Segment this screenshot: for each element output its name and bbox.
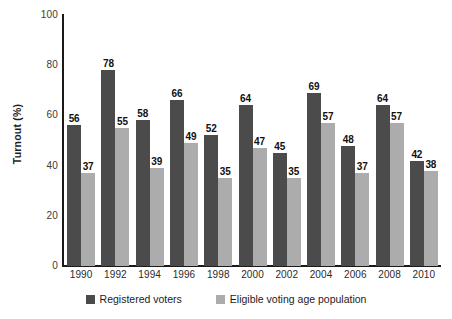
bar-group: 5637 xyxy=(67,0,95,266)
x-tick-label: 1996 xyxy=(173,269,196,280)
bar-group: 5839 xyxy=(136,0,164,266)
x-tick-label: 2004 xyxy=(310,269,333,280)
voter-turnout-bar-chart: Turnout (%) 020406080100 563778555839664… xyxy=(0,0,452,319)
legend-label: Registered voters xyxy=(100,293,182,305)
bar-eligible: 37 xyxy=(81,173,95,266)
bar-value-label: 45 xyxy=(274,141,285,152)
bar-group: 4837 xyxy=(341,0,369,266)
bar-value-label: 55 xyxy=(117,116,128,127)
y-tick-label: 20 xyxy=(32,209,58,220)
bar-eligible: 57 xyxy=(321,123,335,266)
y-axis-tick-labels: 020406080100 xyxy=(26,0,58,319)
y-tick-label: 80 xyxy=(32,59,58,70)
bar-value-label: 37 xyxy=(357,161,368,172)
x-tick-label: 2002 xyxy=(275,269,298,280)
bar-value-label: 35 xyxy=(220,166,231,177)
bar-registered: 45 xyxy=(273,153,287,266)
bar-registered: 42 xyxy=(410,161,424,266)
bar-value-label: 49 xyxy=(185,131,196,142)
bar-group: 6457 xyxy=(376,0,404,266)
bar-eligible: 38 xyxy=(424,171,438,266)
bar-eligible: 55 xyxy=(115,128,129,266)
bar-value-label: 57 xyxy=(323,111,334,122)
bars-layer: 5637785558396649523564474535695748376457… xyxy=(64,0,441,266)
x-tick-label: 2000 xyxy=(241,269,264,280)
y-tick-label: 100 xyxy=(32,9,58,20)
chart-legend: Registered votersEligible voting age pop… xyxy=(0,289,452,309)
bar-registered: 48 xyxy=(341,146,355,266)
bar-registered: 78 xyxy=(101,70,115,266)
bar-eligible: 39 xyxy=(150,168,164,266)
bar-group: 7855 xyxy=(101,0,129,266)
y-tick-label: 60 xyxy=(32,109,58,120)
bar-group: 5235 xyxy=(204,0,232,266)
bar-eligible: 49 xyxy=(184,143,198,266)
bar-group: 4535 xyxy=(273,0,301,266)
bar-eligible: 35 xyxy=(218,178,232,266)
bar-eligible: 47 xyxy=(253,148,267,266)
bar-eligible: 57 xyxy=(390,123,404,266)
y-axis-title-text: Turnout (%) xyxy=(11,104,23,164)
bar-value-label: 56 xyxy=(69,113,80,124)
bar-value-label: 35 xyxy=(288,166,299,177)
bar-value-label: 57 xyxy=(391,111,402,122)
bar-registered: 58 xyxy=(136,120,150,266)
dark-gray-swatch-icon xyxy=(86,295,95,304)
y-tick-label: 40 xyxy=(32,159,58,170)
bar-group: 6649 xyxy=(170,0,198,266)
bar-value-label: 64 xyxy=(377,93,388,104)
bar-group: 6957 xyxy=(307,0,335,266)
bar-value-label: 78 xyxy=(103,58,114,69)
x-tick-label: 1992 xyxy=(104,269,127,280)
bar-value-label: 47 xyxy=(254,136,265,147)
legend-item[interactable]: Eligible voting age population xyxy=(216,293,367,305)
bar-value-label: 64 xyxy=(240,93,251,104)
bar-value-label: 38 xyxy=(425,159,436,170)
bar-registered: 64 xyxy=(376,105,390,266)
x-tick-label: 2008 xyxy=(378,269,401,280)
light-gray-swatch-icon xyxy=(216,295,225,304)
bar-eligible: 37 xyxy=(355,173,369,266)
bar-value-label: 52 xyxy=(206,123,217,134)
x-tick-label: 1994 xyxy=(138,269,161,280)
x-tick-label: 1998 xyxy=(207,269,230,280)
bar-group: 4238 xyxy=(410,0,438,266)
bar-registered: 66 xyxy=(170,100,184,266)
x-tick-label: 2010 xyxy=(413,269,436,280)
bar-value-label: 66 xyxy=(171,88,182,99)
bar-eligible: 35 xyxy=(287,178,301,266)
bar-registered: 64 xyxy=(239,105,253,266)
bar-registered: 69 xyxy=(307,93,321,266)
bar-value-label: 37 xyxy=(83,161,94,172)
bar-value-label: 48 xyxy=(343,134,354,145)
bar-registered: 52 xyxy=(204,135,218,266)
x-tick-label: 1990 xyxy=(70,269,93,280)
bar-value-label: 42 xyxy=(411,149,422,160)
bar-value-label: 39 xyxy=(151,156,162,167)
bar-value-label: 69 xyxy=(309,81,320,92)
legend-label: Eligible voting age population xyxy=(230,293,367,305)
x-axis-tick-labels: 1990199219941996199820002002200420062008… xyxy=(64,269,441,285)
legend-item[interactable]: Registered voters xyxy=(86,293,182,305)
y-tick-label: 0 xyxy=(32,260,58,271)
bar-value-label: 58 xyxy=(137,108,148,119)
bar-registered: 56 xyxy=(67,125,81,266)
x-tick-label: 2006 xyxy=(344,269,367,280)
bar-group: 6447 xyxy=(239,0,267,266)
